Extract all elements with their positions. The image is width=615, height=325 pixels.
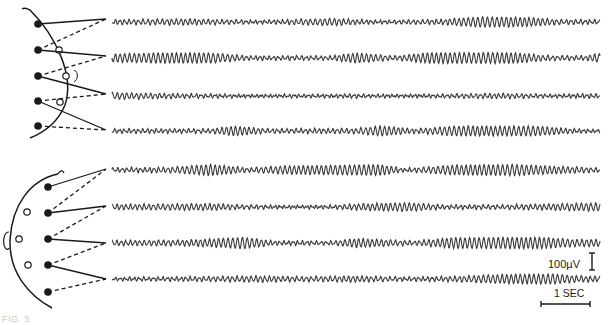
reference-electrode xyxy=(24,209,30,215)
active-electrode xyxy=(34,72,42,80)
active-electrode xyxy=(44,209,52,217)
reference-electrode xyxy=(63,73,69,79)
head-top-tick xyxy=(58,171,64,174)
eeg-traces xyxy=(112,17,600,284)
reference-electrode xyxy=(16,236,22,242)
ear-icon xyxy=(4,232,9,249)
active-electrode xyxy=(44,288,52,296)
eeg-trace-1 xyxy=(112,17,600,27)
eeg-trace-2 xyxy=(112,53,600,64)
derivation-lines xyxy=(48,169,106,292)
time-calibration-bar xyxy=(541,301,590,307)
reference-electrode xyxy=(25,262,31,268)
amplitude-calibration-label: 100µV xyxy=(548,258,581,270)
active-electrode xyxy=(34,97,42,105)
eeg-trace-4 xyxy=(112,126,600,136)
eeg-trace-5 xyxy=(112,164,600,175)
derivation-lines xyxy=(38,19,106,130)
reference-electrode xyxy=(57,99,63,105)
active-electrode xyxy=(44,261,52,269)
eeg-trace-6 xyxy=(112,203,600,212)
eeg-trace-7 xyxy=(112,237,600,248)
eeg-trace-8 xyxy=(112,274,600,284)
ear-mark xyxy=(74,70,77,82)
sagittal-montage-diagram xyxy=(22,8,106,138)
eeg-figure: 100µV 1 SEC xyxy=(0,0,615,325)
eeg-trace-3 xyxy=(112,92,600,99)
active-electrode xyxy=(34,20,42,28)
active-electrode xyxy=(34,122,42,130)
active-electrode xyxy=(44,183,52,191)
amplitude-calibration-bar xyxy=(589,253,595,270)
coronal-montage-diagram xyxy=(4,169,106,308)
figure-caption: FIG. 5 xyxy=(2,314,30,324)
head-profile-outline xyxy=(22,8,68,138)
active-electrode xyxy=(34,46,42,54)
active-electrode xyxy=(44,235,52,243)
time-calibration-label: 1 SEC xyxy=(554,287,585,299)
